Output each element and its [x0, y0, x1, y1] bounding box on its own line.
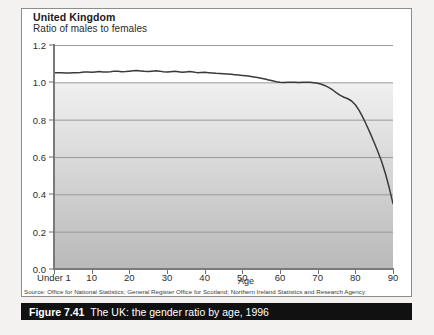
figure-caption-title: The UK: the gender ratio by age, 1996 — [90, 306, 269, 318]
x-axis-tick-mark — [393, 270, 394, 274]
x-axis-tick-mark — [318, 270, 319, 274]
y-axis-tick-label: 0.8 — [14, 114, 46, 125]
data-series-line — [54, 71, 393, 204]
y-axis-tick-mark — [49, 157, 54, 158]
source-note: Source: Office for National Statistics; … — [24, 288, 365, 295]
x-axis-title: Age — [238, 276, 254, 286]
y-axis-tick-mark — [49, 82, 54, 83]
x-axis-tick-mark — [355, 270, 356, 274]
x-axis-tick-mark — [242, 270, 243, 274]
x-axis-tick-mark — [54, 270, 55, 274]
chart-subtitle: Ratio of males to females — [33, 23, 147, 35]
chart-canvas — [54, 45, 393, 269]
y-axis-tick-mark — [49, 119, 54, 120]
figure-caption-bar: Figure 7.41 The UK: the gender ratio by … — [21, 303, 412, 320]
y-axis-tick-label: 0.4 — [14, 189, 46, 200]
x-axis-tick-mark — [280, 270, 281, 274]
y-axis-tick-label: 0.2 — [14, 226, 46, 237]
y-axis-tick-mark — [49, 45, 54, 46]
chart-title-block: United Kingdom Ratio of males to females — [33, 11, 147, 35]
x-axis-tick-mark — [167, 270, 168, 274]
figure-container: United Kingdom Ratio of males to females… — [0, 0, 434, 335]
x-axis-tick-mark — [205, 270, 206, 274]
x-axis-tick-mark — [92, 270, 93, 274]
y-axis-tick-mark — [49, 194, 54, 195]
y-axis-tick-mark — [49, 231, 54, 232]
x-axis — [53, 268, 394, 270]
x-axis-tick-mark — [129, 270, 130, 274]
plot-area — [54, 45, 393, 269]
y-axis-tick-label: 1.2 — [14, 40, 46, 51]
figure-caption-text: Figure 7.41 The UK: the gender ratio by … — [21, 306, 269, 318]
figure-caption-label: Figure 7.41 — [29, 306, 84, 318]
y-axis-tick-label: 0.6 — [14, 152, 46, 163]
y-axis-tick-label: 1.0 — [14, 77, 46, 88]
chart-title: United Kingdom — [33, 11, 147, 23]
